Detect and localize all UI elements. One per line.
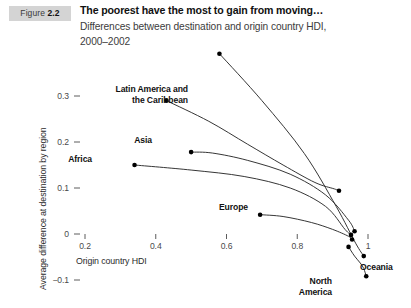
figure-container: Figure 2.2 The poorest have the most to … [0,0,411,308]
series-line-europe [260,215,352,240]
x-tick-label-2: 0.6 [212,241,242,251]
series-start-marker-oceania [217,51,222,56]
series-label-latin-america: Latin America andthe Caribbean [108,84,188,105]
series-label-europe: Europe [200,202,248,213]
series-label-latin-america-line2: the Caribbean [132,95,188,105]
series-line-asia [191,152,354,231]
series-line-latin-america-and-the-caribbean [166,101,339,191]
x-tick-label-3: 0.8 [282,241,312,251]
x-tick-label-0: 0.2 [70,241,100,251]
series-end-marker-north-america [364,274,369,279]
series-start-marker-europe [258,212,263,217]
series-label-africa: Africa [50,154,92,165]
series-start-marker-asia [189,150,194,155]
series-label-latin-america-line1: Latin America and [116,84,188,94]
series-end-marker-africa [349,233,354,238]
series-end-marker-oceania [361,254,366,259]
axis-tick-marks [74,96,368,280]
x-tick-label-1: 0.4 [141,241,171,251]
x-tick-label-4: 1 [353,241,383,251]
series-label-north-america-line2: America [299,287,332,297]
series-label-asia: Asia [110,135,152,146]
chart-plot-area: 0.3 0.2 0.1 0 −0.1 0.2 0.4 0.6 0.8 1 Ori… [0,0,411,308]
series-start-marker-north-america [346,245,351,250]
x-axis-title: Origin country HDI [76,256,147,266]
series-start-marker-africa [132,163,137,168]
series-label-north-america-line1: North [310,276,332,286]
y-tick-label-0: 0.3 [35,91,69,101]
series-end-marker-asia [352,229,357,234]
series-label-oceania: Oceania [360,262,410,273]
y-axis-title: Average difference at destination by reg… [38,127,48,290]
series-end-marker-latin-america-and-the-caribbean [337,188,342,193]
series-label-north-america: NorthAmerica [286,276,332,297]
